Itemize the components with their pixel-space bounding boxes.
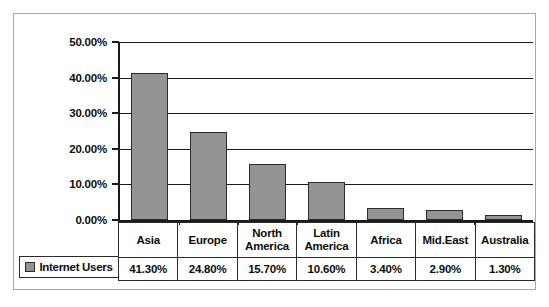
value-cell-north-america: 15.70%	[237, 258, 296, 281]
category-cell-north-america: North America	[237, 223, 296, 258]
y-axis-tick	[112, 183, 119, 185]
y-axis-tick-label: 50.00%	[69, 36, 107, 48]
bar-slot	[415, 42, 474, 220]
value-cell-europe: 24.80%	[178, 258, 237, 281]
y-axis-tick	[112, 112, 119, 114]
y-axis-tick-label: 0.00%	[75, 214, 107, 226]
value-cell-latin-america: 10.60%	[297, 258, 356, 281]
category-cell-latin-america: Latin America	[297, 223, 356, 258]
bars-group	[120, 42, 533, 220]
bar-mid-east	[426, 210, 463, 220]
legend-item-internet-users: Internet Users	[19, 256, 119, 278]
data-table: AsiaEuropeNorth AmericaLatin AmericaAfri…	[118, 222, 535, 281]
value-cell-africa: 3.40%	[356, 258, 415, 281]
category-cell-africa: Africa	[356, 223, 415, 258]
category-cell-asia: Asia	[119, 223, 178, 258]
y-axis-tick-label: 40.00%	[69, 72, 107, 84]
bar-slot	[179, 42, 238, 220]
value-cell-australia: 1.30%	[475, 258, 534, 281]
y-axis-tick-label: 30.00%	[69, 107, 107, 119]
y-axis-tick	[112, 148, 119, 150]
y-axis-tick	[112, 77, 119, 79]
y-axis-tick	[112, 219, 119, 221]
legend-label: Internet Users	[39, 261, 112, 273]
bar-slot	[474, 42, 533, 220]
legend-swatch-icon	[25, 262, 35, 272]
bar-slot	[297, 42, 356, 220]
category-cell-australia: Australia	[475, 223, 534, 258]
bar-slot	[356, 42, 415, 220]
bar-europe	[190, 132, 227, 220]
bar-latin-america	[308, 182, 345, 220]
value-cell-mid-east: 2.90%	[416, 258, 475, 281]
y-axis-tick	[112, 41, 119, 43]
bar-slot	[238, 42, 297, 220]
bar-africa	[367, 208, 404, 220]
bar-australia	[485, 215, 522, 220]
category-cell-europe: Europe	[178, 223, 237, 258]
chart-frame: 50.00%40.00%30.00%20.00%10.00%0.00% Asia…	[13, 13, 536, 290]
bar-north-america	[249, 164, 286, 220]
bar-asia	[131, 73, 168, 220]
table-row-values: 41.30%24.80%15.70%10.60%3.40%2.90%1.30%	[119, 258, 535, 281]
value-cell-asia: 41.30%	[119, 258, 178, 281]
bar-slot	[120, 42, 179, 220]
y-axis-tick-label: 20.00%	[69, 143, 107, 155]
table-row-categories: AsiaEuropeNorth AmericaLatin AmericaAfri…	[119, 223, 535, 258]
category-cell-mid-east: Mid.East	[416, 223, 475, 258]
plot-area: 50.00%40.00%30.00%20.00%10.00%0.00%	[118, 42, 533, 222]
y-axis-tick-label: 10.00%	[69, 178, 107, 190]
